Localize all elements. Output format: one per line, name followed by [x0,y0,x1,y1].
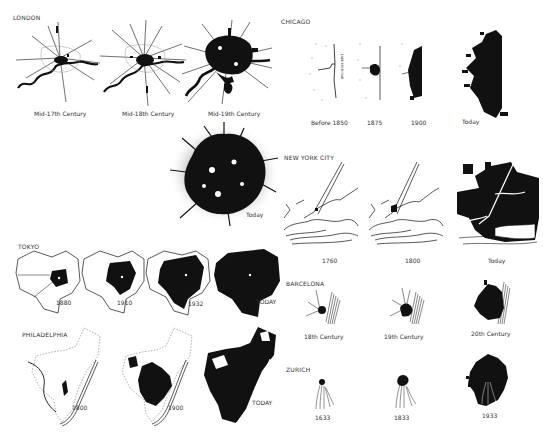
london-map-mid-17th [12,18,104,108]
new-york-map-1760-graphic [282,160,360,246]
new-york-map-1800 [367,160,445,246]
london-map-mid-18th [100,20,186,108]
chicago-map-today-graphic [460,28,512,120]
barcelona-map-20th [470,278,518,328]
philadelphia-map-1800 [26,326,102,426]
new-york-map-today [455,158,541,250]
barcelona-caption-1: 18th Century [304,333,344,340]
new-york-caption-1: 1760 [322,257,337,264]
london-caption-2: Mid-18th Century [122,110,174,117]
london-map-18th-graphic [100,20,186,108]
tokyo-map-1880-graphic [14,247,82,315]
zurich-map-1833-graphic [392,372,416,410]
zurich-caption-2: 1833 [394,414,409,421]
tokyo-map-today [212,247,282,319]
philadelphia-map-1900 [116,326,196,426]
chicago-map-1875 [356,40,390,106]
barcelona-caption-2: 19th Century [384,333,424,340]
new-york-map-1760 [282,160,360,246]
tokyo-map-1910-graphic [80,247,146,315]
philadelphia-caption-3: TODAY [252,399,272,406]
chicago-map-1850-graphic: LAKE MICHIGAN [308,40,350,106]
london-map-mid-19th [182,18,272,108]
zurich-title: ZURICH [286,366,310,373]
london-map-19th-graphic [182,18,272,108]
chicago-map-before-1850: LAKE MICHIGAN [308,40,350,106]
philadelphia-map-1900-graphic [116,326,196,426]
london-caption-3: Mid-19th Century [208,110,260,117]
barcelona-caption-3: 20th Century [471,330,511,337]
new-york-map-1800-graphic [367,160,445,246]
chicago-caption-4: Today [462,118,479,125]
chicago-map-today [460,28,512,120]
zurich-map-1933 [464,352,514,408]
barcelona-map-18th [306,288,346,328]
chicago-caption-3: 1900 [411,119,426,126]
tokyo-map-today-graphic [212,247,282,319]
tokyo-caption-4: TODAY [256,298,276,305]
new-york-map-today-graphic [455,158,541,250]
zurich-map-1633 [312,377,334,411]
philadelphia-caption-2: 1900 [168,404,183,411]
chicago-caption-2: 1875 [367,119,382,126]
chicago-map-1875-graphic [356,40,390,106]
barcelona-title: BARCELONA [286,280,324,287]
zurich-map-1633-graphic [312,377,334,411]
london-caption-1: Mid-17th Century [34,110,86,117]
barcelona-map-18th-graphic [306,288,346,328]
new-york-caption-3: Today [488,257,505,264]
philadelphia-map-today [200,325,280,427]
london-caption-4: Today [246,211,263,218]
zurich-caption-3: 1933 [482,412,497,419]
zurich-map-1933-graphic [464,352,514,408]
chicago-title: CHICAGO [281,18,310,25]
philadelphia-caption-1: 1800 [72,404,87,411]
chicago-map-1900 [398,40,432,106]
chicago-map-1900-graphic [398,40,432,106]
zurich-map-1833 [392,372,416,410]
philadelphia-map-today-graphic [200,325,280,427]
barcelona-map-20th-graphic [470,278,518,328]
tokyo-caption-2: 1910 [117,299,132,306]
tokyo-caption-1: 1880 [56,299,71,306]
chicago-caption-1: Before 1850 [311,119,348,126]
tokyo-map-1880 [14,247,82,315]
new-york-caption-2: 1800 [405,257,420,264]
philadelphia-map-1800-graphic [26,326,102,426]
tokyo-caption-3: 1932 [188,300,203,307]
london-map-17th-graphic [12,18,104,108]
barcelona-map-19th [388,288,430,328]
zurich-caption-1: 1633 [315,414,330,421]
tokyo-map-1910 [80,247,146,315]
svg-text:LAKE MICHIGAN: LAKE MICHIGAN [340,54,344,80]
barcelona-map-19th-graphic [388,288,430,328]
